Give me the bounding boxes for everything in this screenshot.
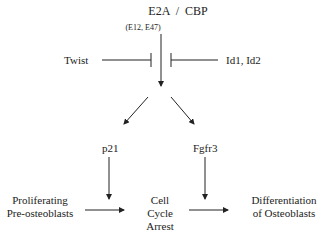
diagram-edges — [0, 0, 325, 241]
edge-to-fgfr3 — [171, 97, 194, 124]
edge-to-p21 — [124, 97, 148, 124]
